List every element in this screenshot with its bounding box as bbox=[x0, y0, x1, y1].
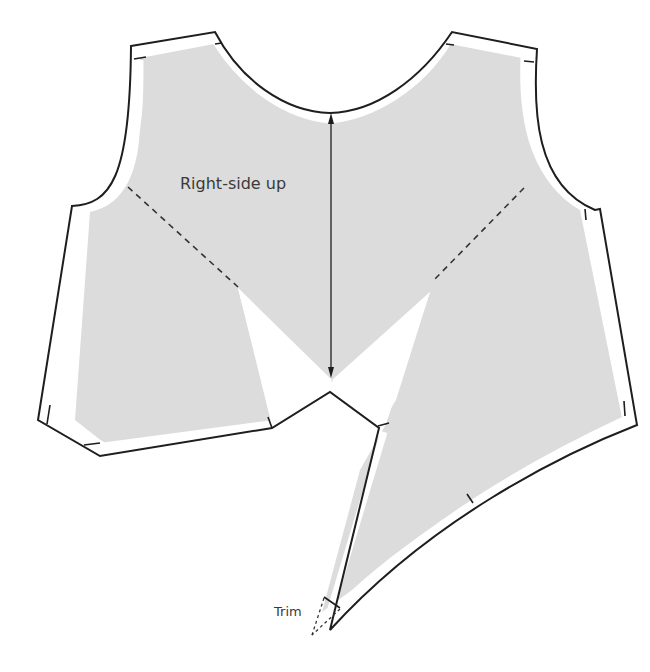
grainline-label: Right-side up bbox=[180, 174, 286, 193]
pattern-diagram bbox=[0, 0, 650, 672]
trim-label: Trim bbox=[274, 604, 302, 619]
